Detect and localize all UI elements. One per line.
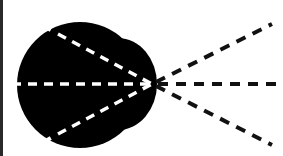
outer-black-dashes — [156, 24, 283, 145]
outer-dash-upper — [156, 24, 272, 82]
diagram-frame: Solid black lobe shape with three white … — [0, 0, 283, 156]
outer-dash-lower — [156, 86, 272, 145]
black-lobe-shape — [17, 22, 157, 148]
convergence-diagram — [0, 0, 283, 156]
